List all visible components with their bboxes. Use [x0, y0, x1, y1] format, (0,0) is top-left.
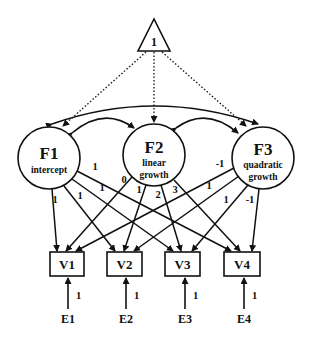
- loading-f2-v3: 2: [155, 189, 160, 200]
- cov-f1-f2: [72, 118, 134, 133]
- factor-f3-name: F3: [254, 140, 273, 159]
- cov-f2-f3: [176, 118, 238, 133]
- loading-f1-v1: 1: [52, 194, 57, 205]
- loading-f3-v2: 1: [206, 180, 211, 191]
- factor-f2-sub2: growth: [140, 170, 170, 180]
- error-loading-e3: 1: [193, 290, 198, 301]
- observed-v1: V1: [50, 252, 84, 276]
- constant-node: 1: [138, 19, 170, 51]
- loading-f2-v4: 3: [172, 184, 177, 195]
- error-loading-labels: 1 1 1 1: [76, 290, 257, 301]
- observed-v3-label: V3: [175, 257, 191, 272]
- error-loading-e4: 1: [252, 290, 257, 301]
- error-loading-e1: 1: [76, 290, 81, 301]
- factor-f1-name: F1: [40, 144, 59, 163]
- loading-f3-v3: 1: [223, 194, 228, 205]
- error-e1: E1: [61, 312, 75, 326]
- loading-f2-v2: 1: [136, 184, 141, 195]
- error-loading-e2: 1: [134, 290, 139, 301]
- loading-f1-v2: 1: [77, 190, 82, 201]
- path-f1-v2: [64, 186, 115, 251]
- growth-model-diagram: 1 F1 intercept F2 linear growth F3 quadr…: [0, 0, 309, 339]
- error-e4: E4: [237, 312, 251, 326]
- mean-path-f3: [162, 52, 246, 126]
- loading-f1-v3: 1: [99, 182, 104, 193]
- loading-f3-v1: -1: [216, 158, 225, 169]
- factor-f2-name: F2: [145, 138, 164, 157]
- constant-label: 1: [151, 35, 157, 49]
- observed-v2: V2: [107, 252, 142, 276]
- factor-f3-sub1: quadratic: [243, 160, 283, 170]
- factor-f3: F3 quadratic growth: [232, 127, 294, 189]
- factor-f1-sub: intercept: [31, 165, 68, 175]
- observed-v4-label: V4: [234, 257, 250, 272]
- factor-f3-sub2: growth: [249, 172, 279, 182]
- factor-f2-sub1: linear: [142, 158, 167, 168]
- mean-paths: [63, 52, 246, 126]
- error-e3: E3: [178, 312, 192, 326]
- error-labels: E1 E2 E3 E4: [61, 312, 251, 326]
- mean-path-f1: [63, 52, 146, 126]
- factor-f1: F1 intercept: [18, 127, 80, 189]
- loading-f1-v4: 1: [92, 161, 97, 172]
- path-f3-v3: [192, 185, 248, 251]
- path-f2-v3: [161, 185, 181, 251]
- error-e2: E2: [119, 312, 133, 326]
- loading-f2-v1: 0: [121, 174, 126, 185]
- observed-v2-label: V2: [117, 257, 133, 272]
- error-paths: [68, 278, 244, 309]
- loading-f3-v4: -1: [246, 194, 255, 205]
- observed-v4: V4: [224, 252, 260, 276]
- observed-v1-label: V1: [59, 257, 75, 272]
- observed-v3: V3: [165, 252, 200, 276]
- factor-f2: F2 linear growth: [123, 124, 185, 186]
